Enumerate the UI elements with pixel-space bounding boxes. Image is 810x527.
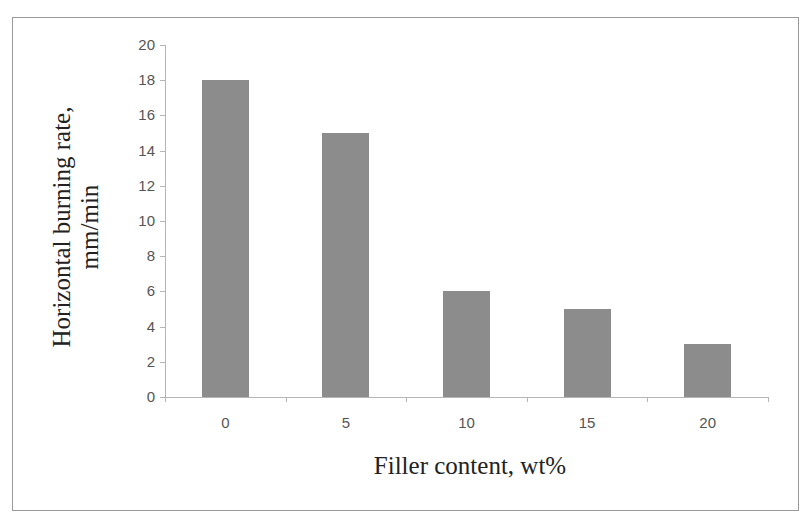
y-axis-title-line-2: mm/min bbox=[76, 62, 104, 392]
y-axis-title: Horizontal burning rate, mm/min bbox=[48, 62, 104, 392]
x-axis-title: Filler content, wt% bbox=[250, 452, 690, 480]
y-tick-mark bbox=[160, 327, 165, 328]
y-tick-mark bbox=[160, 80, 165, 81]
y-tick-label: 12 bbox=[115, 178, 155, 194]
y-tick-mark bbox=[160, 291, 165, 292]
y-axis-line bbox=[165, 45, 166, 398]
y-tick-mark bbox=[160, 221, 165, 222]
y-tick-mark bbox=[160, 151, 165, 152]
x-tick-mark bbox=[768, 397, 769, 402]
x-tick-label: 15 bbox=[557, 414, 617, 431]
x-tick-mark bbox=[165, 397, 166, 402]
y-tick-mark bbox=[160, 45, 165, 46]
bar-20 bbox=[684, 344, 731, 397]
x-tick-mark bbox=[527, 397, 528, 402]
x-tick-label: 10 bbox=[437, 414, 497, 431]
y-tick-label: 20 bbox=[115, 37, 155, 53]
bar-chart: 0246810121416182005101520 bbox=[0, 0, 810, 527]
x-axis-line bbox=[165, 397, 768, 398]
y-tick-label: 0 bbox=[115, 389, 155, 405]
bar-15 bbox=[564, 309, 611, 397]
y-tick-label: 14 bbox=[115, 143, 155, 159]
y-tick-label: 8 bbox=[115, 248, 155, 264]
y-tick-label: 18 bbox=[115, 72, 155, 88]
y-tick-label: 2 bbox=[115, 354, 155, 370]
bar-0 bbox=[202, 80, 249, 397]
y-tick-mark bbox=[160, 115, 165, 116]
x-tick-mark bbox=[647, 397, 648, 402]
x-tick-label: 0 bbox=[195, 414, 255, 431]
y-tick-mark bbox=[160, 256, 165, 257]
y-tick-label: 6 bbox=[115, 283, 155, 299]
bar-10 bbox=[443, 291, 490, 397]
y-tick-label: 10 bbox=[115, 213, 155, 229]
x-tick-label: 20 bbox=[678, 414, 738, 431]
y-tick-mark bbox=[160, 362, 165, 363]
y-tick-label: 4 bbox=[115, 319, 155, 335]
y-tick-label: 16 bbox=[115, 107, 155, 123]
bar-5 bbox=[322, 133, 369, 397]
x-tick-mark bbox=[406, 397, 407, 402]
x-tick-label: 5 bbox=[316, 414, 376, 431]
y-axis-title-line-1: Horizontal burning rate, bbox=[48, 62, 76, 392]
y-tick-mark bbox=[160, 186, 165, 187]
x-tick-mark bbox=[286, 397, 287, 402]
